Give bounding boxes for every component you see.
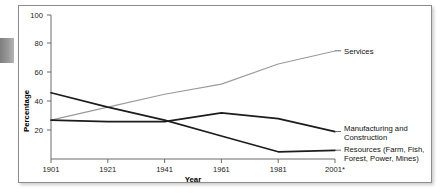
x-tick-label-1921: 1921 (99, 165, 116, 174)
x-tick-label-1941: 1941 (156, 165, 173, 174)
x-tick-label-2001: 2001* (325, 165, 345, 174)
chart-plot-area: 100 80 60 40 20 Percentage 1901 (19, 6, 433, 184)
y-tick-label-100: 100 (30, 11, 43, 20)
page-edge-tab (0, 38, 14, 63)
y-axis-ticks (47, 15, 51, 130)
line-chart-svg: 100 80 60 40 20 Percentage 1901 (19, 6, 433, 184)
y-axis-title: Percentage (22, 89, 31, 132)
series-label-manufacturing-construction-line2: Construction (344, 133, 387, 142)
axis-lines (51, 15, 335, 159)
series-label-resources-line2: Forest, Power, Mines) (344, 154, 419, 163)
series-label-resources-line1: Resources (Farm, Fish, (344, 145, 424, 154)
x-tick-label-1961: 1961 (213, 165, 230, 174)
figure-frame: 100 80 60 40 20 Percentage 1901 (18, 5, 432, 183)
series-line-services (51, 51, 335, 120)
x-axis-title: Year (185, 175, 201, 184)
y-tick-label-40: 40 (35, 97, 43, 106)
x-tick-label-1981: 1981 (270, 165, 287, 174)
series-label-services: Services (344, 47, 374, 56)
x-tick-label-1901: 1901 (43, 165, 60, 174)
y-tick-label-60: 60 (35, 68, 43, 77)
figure-root: 100 80 60 40 20 Percentage 1901 (0, 0, 444, 195)
label-leader-lines (335, 51, 341, 150)
x-axis-ticks (51, 159, 335, 163)
y-tick-label-80: 80 (35, 39, 43, 48)
series-label-manufacturing-construction-line1: Manufacturing and (344, 124, 408, 133)
y-tick-label-20: 20 (35, 126, 43, 135)
